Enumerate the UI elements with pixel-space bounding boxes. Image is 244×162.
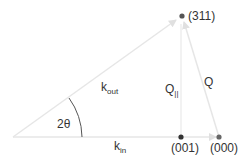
point-001-dot [178,134,183,139]
kin-sub: in [120,146,126,155]
kout-sub: out [107,87,118,96]
diagram-canvas: (311) (001) (000) kout kin Q|| Q 2θ [0,0,244,162]
point-000-label: (000) [210,142,238,154]
point-311-dot [179,13,184,18]
kout-label: kout [101,81,118,93]
qpar-main: Q [165,82,174,96]
point-001-label: (001) [171,142,199,154]
angle-arc [69,98,82,137]
qpar-sub: || [174,89,178,98]
point-000-dot [216,134,221,139]
kout-arrow [13,20,176,137]
qpar-label: Q|| [165,83,179,95]
q-arrow [184,22,219,137]
angle-label: 2θ [57,118,70,130]
point-311-label: (311) [188,10,215,22]
q-label: Q [204,76,213,88]
kin-label: kin [114,140,126,152]
